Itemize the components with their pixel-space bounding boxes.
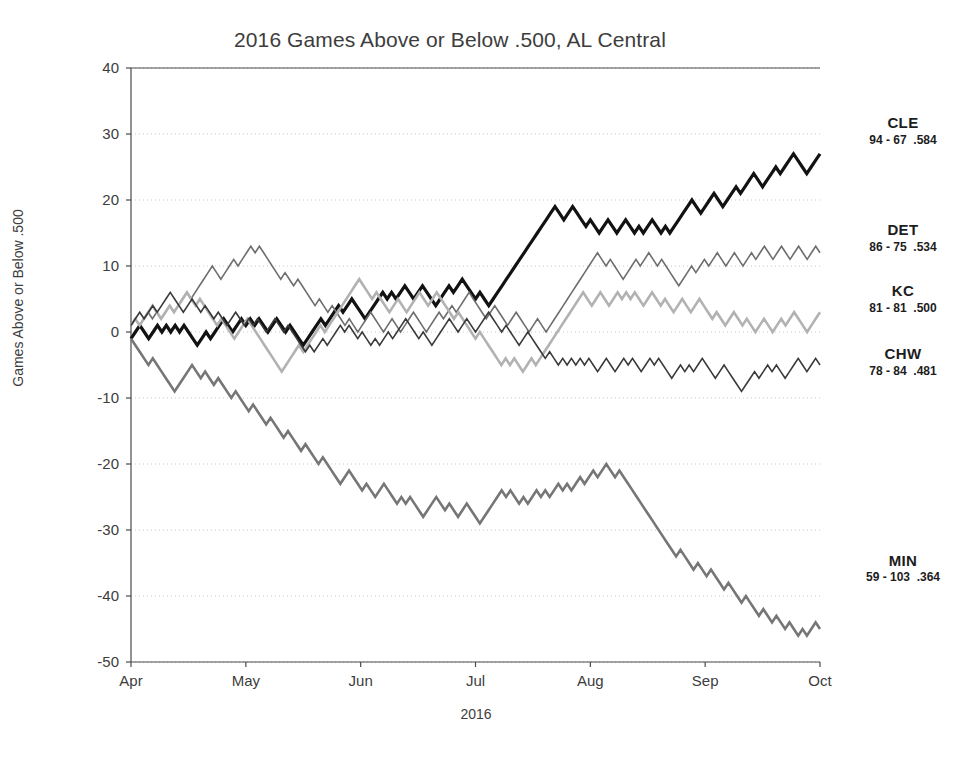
- team-record: 86 - 75 .534: [838, 240, 960, 255]
- y-tick-label: -50: [73, 654, 119, 669]
- team-record: 59 - 103 .364: [838, 570, 960, 585]
- series-line-chw: [131, 292, 820, 391]
- y-tick-label: -40: [73, 588, 119, 603]
- series-line-kc: [131, 279, 820, 371]
- team-abbreviation: KC: [838, 282, 960, 301]
- y-tick-label: 0: [73, 324, 119, 339]
- x-tick-label: Jun: [331, 673, 391, 688]
- y-tick-label: 10: [73, 258, 119, 273]
- team-abbreviation: MIN: [838, 552, 960, 571]
- team-abbreviation: DET: [838, 221, 960, 240]
- plot-area: [0, 0, 960, 775]
- series-annotation-min: MIN59 - 103 .364: [838, 552, 960, 586]
- x-tick-label: Sep: [675, 673, 735, 688]
- team-record: 78 - 84 .481: [838, 364, 960, 379]
- team-record: 94 - 67 .584: [838, 133, 960, 148]
- series-annotation-det: DET86 - 75 .534: [838, 221, 960, 255]
- series-line-det: [131, 246, 820, 332]
- x-tick-label: Jul: [446, 673, 506, 688]
- series-line-cle: [131, 154, 820, 345]
- x-tick-label: Aug: [560, 673, 620, 688]
- series-annotation-chw: CHW78 - 84 .481: [838, 345, 960, 379]
- series-line-min: [131, 339, 820, 636]
- y-tick-label: 40: [73, 60, 119, 75]
- chart-figure: 2016 Games Above or Below .500, AL Centr…: [0, 0, 960, 775]
- x-tick-label: Apr: [101, 673, 161, 688]
- series-annotation-cle: CLE94 - 67 .584: [838, 114, 960, 148]
- y-tick-label: -30: [73, 522, 119, 537]
- y-tick-label: -20: [73, 456, 119, 471]
- x-tick-label: May: [216, 673, 276, 688]
- y-tick-label: -10: [73, 390, 119, 405]
- y-tick-label: 30: [73, 126, 119, 141]
- x-tick-label: Oct: [790, 673, 850, 688]
- team-abbreviation: CLE: [838, 114, 960, 133]
- series-annotation-kc: KC81 - 81 .500: [838, 282, 960, 316]
- team-abbreviation: CHW: [838, 345, 960, 364]
- y-tick-label: 20: [73, 192, 119, 207]
- team-record: 81 - 81 .500: [838, 301, 960, 316]
